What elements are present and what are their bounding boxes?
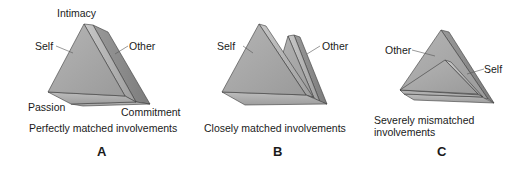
label-self: Self: [35, 40, 53, 52]
label-self: Self: [484, 63, 502, 75]
caption-c-line2: involvements: [374, 126, 435, 138]
label-passion: Passion: [28, 101, 65, 113]
panel-letter-c: C: [437, 144, 446, 159]
caption-a: Perfectly matched involvements: [29, 122, 177, 134]
label-other: Other: [385, 44, 411, 56]
triangle-diagram: [0, 0, 528, 176]
panel-b-triangles: [222, 24, 327, 105]
caption-b: Closely matched involvements: [204, 122, 346, 134]
label-commitment: Commitment: [121, 106, 181, 118]
label-other: Other: [129, 40, 155, 52]
label-intimacy: Intimacy: [57, 7, 96, 19]
label-self: Self: [217, 40, 235, 52]
panel-c-triangles: [400, 30, 494, 103]
label-other: Other: [322, 40, 348, 52]
panel-letter-a: A: [97, 144, 106, 159]
panel-letter-b: B: [273, 144, 282, 159]
panel-a-triangles: [48, 24, 150, 106]
caption-c-line1: Severely mismatched: [374, 114, 474, 126]
